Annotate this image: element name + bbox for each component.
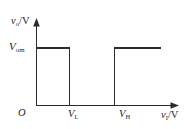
x-axis-label-unit: /V xyxy=(168,109,179,120)
waveform-figure: vo/V vI/V Vom O VL VH xyxy=(0,0,193,129)
x-axis-label: vI/V xyxy=(161,110,178,121)
output-waveform xyxy=(37,48,162,106)
x-tick-label-vh: VH xyxy=(119,109,130,120)
y-axis-label-unit: /V xyxy=(19,15,30,26)
x-tick-label-vl: VL xyxy=(68,109,79,120)
y-axis-arrow-icon xyxy=(33,18,40,27)
x-tick-vh-subscript: H xyxy=(125,113,130,120)
y-axis-label-symbol: v xyxy=(11,15,16,26)
origin-label: O xyxy=(18,108,26,119)
y-axis-label-subscript: o xyxy=(16,20,19,27)
x-axis-label-subscript: I xyxy=(166,114,168,121)
y-tick-label-vom: Vom xyxy=(9,41,25,52)
y-tick-vom-subscript: om xyxy=(16,46,25,53)
y-axis-label: vo/V xyxy=(11,16,30,27)
y-tick-vom-symbol: V xyxy=(9,40,16,52)
x-tick-vl-subscript: L xyxy=(74,113,78,120)
x-axis-arrow-icon xyxy=(171,102,180,108)
x-axis-label-symbol: v xyxy=(161,109,166,120)
